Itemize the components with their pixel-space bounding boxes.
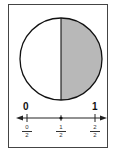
- numerator: 2: [90, 124, 100, 132]
- label-one: 1: [92, 102, 98, 112]
- denominator: 2: [22, 132, 32, 139]
- right-arrow-icon: [100, 116, 107, 121]
- denominator: 2: [56, 132, 66, 139]
- point-half: [59, 116, 62, 119]
- left-arrow-icon: [16, 116, 23, 121]
- fraction-1-2: 1 2: [56, 124, 66, 138]
- fraction-0-2: 0 2: [22, 124, 32, 138]
- fraction-2-2: 2 2: [90, 124, 100, 138]
- denominator: 2: [90, 132, 100, 139]
- shaded-half: [61, 18, 102, 100]
- label-zero: 0: [23, 102, 29, 112]
- numerator: 1: [56, 124, 66, 132]
- numerator: 0: [22, 124, 32, 132]
